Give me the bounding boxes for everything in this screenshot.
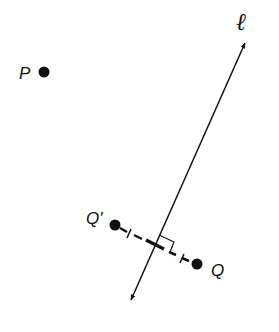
label-q: Q	[211, 261, 224, 280]
label-q-prime: Q'	[86, 209, 103, 228]
label-p: P	[19, 64, 31, 83]
point-q-prime	[110, 220, 121, 231]
reflection-diagram: P Q' Q ℓ	[0, 0, 279, 332]
point-q	[192, 259, 203, 270]
label-line-l: ℓ	[236, 8, 246, 36]
point-p	[39, 67, 50, 78]
